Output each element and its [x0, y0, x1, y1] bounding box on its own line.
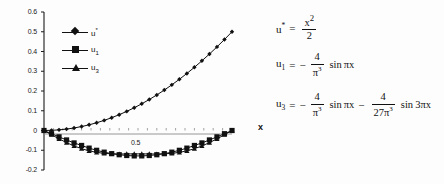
equation-u3-lhs: u3: [276, 97, 285, 112]
equation-u-star-denominator: 2: [305, 30, 314, 42]
equation-u3-numerator-2: 4: [379, 92, 388, 104]
chart-svg: [0, 0, 272, 184]
x-axis-ticks: [53, 128, 232, 131]
legend-label-u1: u1: [91, 45, 99, 56]
x-axis-name-label: x: [258, 122, 263, 132]
data-point-u*: [109, 116, 113, 120]
legend-marker-triangle-icon: [62, 63, 88, 73]
equation-u-star: u* = x2 2: [276, 14, 319, 42]
equation-u1-denominator: π3: [311, 65, 324, 78]
legend-item-u1: u1: [62, 41, 114, 59]
y-axis-tick-label: 0.6: [15, 8, 37, 15]
data-point-u*: [125, 109, 129, 113]
equation-u3-trig-2: sin3πx: [401, 99, 431, 110]
equation-u1-equals: =: [289, 59, 295, 71]
chart-legend: u* u1 u3: [62, 23, 114, 77]
legend-label-u-star: u*: [91, 27, 98, 38]
equation-u-star-fraction: x2 2: [302, 14, 316, 42]
y-axis-tick-label: 0.4: [15, 48, 37, 55]
y-axis-tick-label: -0.1: [15, 146, 37, 153]
legend-item-u-star: u*: [62, 23, 114, 41]
equation-u1-lhs: u1: [276, 57, 285, 72]
equation-u3-fraction-2: 4 27π3: [372, 92, 395, 118]
figure-container: 0.60.50.40.30.20.10-0.1-0.2 0.5 u* u1: [0, 0, 444, 184]
x-axis-tick-label: 0.5: [131, 139, 140, 146]
data-point-u*: [57, 128, 61, 132]
legend-marker-diamond-icon: [62, 27, 88, 37]
equation-u3-denominator-1: π3: [311, 105, 324, 118]
equation-u3-trig-1: sinπx: [330, 99, 355, 110]
equation-u1: u1 = − 4 π3 sinπx: [276, 52, 354, 78]
equation-block: u* = x2 2 u1 = − 4 π3 sinπx u3 = − 4: [272, 8, 444, 184]
y-axis-tick-label: 0.5: [15, 28, 37, 35]
data-point-u*: [140, 102, 144, 106]
data-point-u*: [87, 123, 91, 127]
equation-u3: u3 = − 4 π3 sinπx − 4 27π3 sin3πx: [276, 92, 431, 118]
data-point-u*: [132, 106, 136, 110]
data-point-u*: [102, 118, 106, 122]
data-point-u*: [117, 113, 121, 117]
data-point-u*: [94, 121, 98, 125]
data-point-u*: [64, 127, 68, 131]
data-point-u*: [79, 124, 83, 128]
legend-item-u3: u3: [62, 59, 114, 77]
legend-label-u3: u3: [91, 63, 99, 74]
equation-u3-fraction-1: 4 π3: [311, 92, 324, 118]
y-axis-tick-label: 0.2: [15, 87, 37, 94]
y-axis-tick-label: 0.3: [15, 67, 37, 74]
equation-u1-sign: −: [299, 59, 305, 71]
equation-u-star-numerator: x2: [302, 14, 316, 29]
equation-u3-sign-2: −: [358, 99, 364, 111]
equation-u1-fraction: 4 π3: [311, 52, 324, 78]
equation-u1-trig: sinπx: [330, 59, 355, 70]
equation-u-star-lhs: u*: [276, 21, 285, 35]
y-axis-tick-label: -0.2: [15, 166, 37, 173]
equation-u3-numerator-1: 4: [312, 92, 321, 104]
y-axis-tick-label: 0.1: [15, 107, 37, 114]
equation-u-star-equals: =: [289, 22, 295, 34]
legend-marker-square-icon: [62, 45, 88, 55]
equation-u3-sign-1: −: [299, 99, 305, 111]
data-point-u*: [147, 97, 151, 101]
chart-plot-area: 0.60.50.40.30.20.10-0.1-0.2 0.5 u* u1: [0, 0, 272, 184]
equation-u3-denominator-2: 27π3: [372, 105, 395, 118]
equation-u3-equals: =: [289, 99, 295, 111]
equation-u1-numerator: 4: [312, 52, 321, 64]
y-axis-tick-label: 0: [15, 127, 37, 134]
